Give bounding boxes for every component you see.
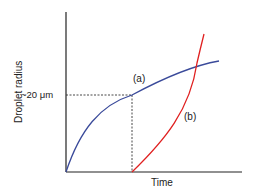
curve-b-label: (b)	[184, 111, 196, 122]
curve-b	[132, 34, 204, 172]
y-axis-label: Droplet radius	[13, 61, 24, 123]
y-marker-label: ~20 μm	[21, 89, 53, 100]
x-axis-label: Time	[151, 177, 173, 188]
curve-a-label: (a)	[133, 73, 145, 84]
droplet-growth-chart: (a) (b) ~20 μm Time Droplet radius	[0, 0, 253, 194]
